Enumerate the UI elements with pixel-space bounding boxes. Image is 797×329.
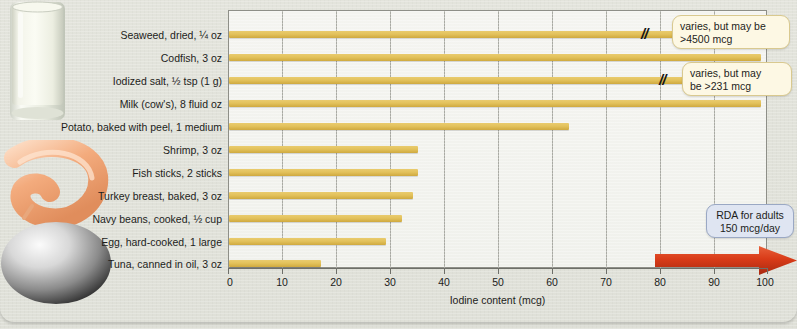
- x-tick-30: [390, 268, 391, 274]
- x-tick-label-60: 60: [546, 276, 558, 288]
- gridline-10: [282, 11, 283, 269]
- row-label-tuna: Tuna, canned in oil, 3 oz: [0, 259, 222, 270]
- iodine-content-chart-figure: Seaweed, dried, ¼ oz Codfish, 3 oz Iodiz…: [0, 0, 797, 329]
- callout-iodized-salt: varies, but may be >231 mcg: [682, 62, 792, 96]
- bar-egg: [229, 238, 386, 245]
- row-label-milk: Milk (cow's), 8 fluid oz: [0, 99, 222, 110]
- x-tick-90: [714, 268, 715, 274]
- row-label-fish-sticks: Fish sticks, 2 sticks: [0, 168, 222, 179]
- category-labels: Seaweed, dried, ¼ oz Codfish, 3 oz Iodiz…: [0, 0, 222, 270]
- row-label-potato: Potato, baked with peel, 1 medium: [0, 122, 222, 133]
- callout-rda-line1: RDA for adults: [714, 209, 786, 222]
- gridline-60: [552, 11, 553, 269]
- x-tick-label-0: 0: [227, 276, 233, 288]
- callout-salt-line2: be >231 mcg: [690, 80, 784, 93]
- x-tick-100: [767, 268, 768, 274]
- callout-seaweed-line1: varies, but may be: [680, 20, 782, 33]
- gridline-20: [336, 11, 337, 269]
- bar-turkey: [229, 192, 413, 199]
- gridline-40: [444, 11, 445, 269]
- callout-salt-line1: varies, but may: [690, 67, 784, 80]
- callout-seaweed: varies, but may be >4500 mcg: [672, 15, 790, 49]
- x-tick-20: [336, 268, 337, 274]
- row-label-egg: Egg, hard-cooked, 1 large: [0, 237, 222, 248]
- row-label-seaweed: Seaweed, dried, ¼ oz: [0, 30, 222, 41]
- gridline-50: [498, 11, 499, 269]
- x-tick-60: [552, 268, 553, 274]
- row-label-navy-beans: Navy beans, cooked, ½ cup: [0, 214, 222, 225]
- gridline-80: [660, 11, 661, 269]
- callout-rda: RDA for adults 150 mcg/day: [706, 204, 794, 238]
- gridline-70: [606, 11, 607, 269]
- bar-navy-beans: [229, 215, 402, 222]
- x-tick-70: [606, 268, 607, 274]
- bar-codfish: [229, 54, 761, 61]
- row-label-codfish: Codfish, 3 oz: [0, 53, 222, 64]
- x-tick-label-40: 40: [438, 276, 450, 288]
- bar-fish-sticks: [229, 169, 418, 176]
- bar-shrimp: [229, 146, 418, 153]
- x-tick-label-100: 100: [756, 276, 774, 288]
- x-axis-title: Iodine content (mcg): [228, 294, 767, 306]
- x-tick-50: [498, 268, 499, 274]
- x-tick-label-70: 70: [600, 276, 612, 288]
- x-tick-label-90: 90: [708, 276, 720, 288]
- x-tick-80: [660, 268, 661, 274]
- bar-milk: [229, 100, 761, 107]
- gridline-30: [390, 11, 391, 269]
- bar-tuna: [229, 260, 321, 267]
- axis-break-mark-iodized-salt: //: [659, 72, 665, 87]
- x-tick-label-50: 50: [492, 276, 504, 288]
- x-tick-label-30: 30: [384, 276, 396, 288]
- row-label-iodized-salt: Iodized salt, ½ tsp (1 g): [0, 76, 222, 87]
- axis-break-mark-seaweed: //: [641, 26, 647, 41]
- callout-rda-line2: 150 mcg/day: [714, 222, 786, 235]
- row-label-shrimp: Shrimp, 3 oz: [0, 145, 222, 156]
- x-tick-label-80: 80: [654, 276, 666, 288]
- x-tick-0: [228, 268, 229, 274]
- x-tick-label-10: 10: [276, 276, 288, 288]
- row-label-turkey: Turkey breast, baked, 3 oz: [0, 191, 222, 202]
- callout-seaweed-line2: >4500 mcg: [680, 33, 782, 46]
- x-tick-40: [444, 268, 445, 274]
- rda-arrow: [655, 246, 797, 276]
- x-tick-label-20: 20: [330, 276, 342, 288]
- x-tick-10: [282, 268, 283, 274]
- bar-potato: [229, 123, 569, 130]
